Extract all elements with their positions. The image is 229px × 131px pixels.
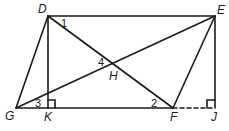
segment-DG [16,16,48,108]
right-angle-mark-K [48,100,55,108]
geometry-diagram: D E G K F J H 1 2 3 4 [0,0,229,131]
angle-3-label: 3 [35,97,41,109]
label-G: G [5,109,14,123]
label-H: H [109,69,118,83]
segment-GE [16,16,215,108]
label-E: E [217,3,226,17]
label-F: F [170,110,178,124]
segment-DF [48,16,173,108]
right-angle-mark-J [207,100,215,108]
angle-2-label: 2 [151,97,157,109]
label-J: J [210,110,218,124]
angle-1-label: 1 [61,17,67,29]
label-K: K [44,110,53,124]
segment-EF [173,16,215,108]
angle-4-label: 4 [98,56,104,68]
label-D: D [38,2,47,16]
